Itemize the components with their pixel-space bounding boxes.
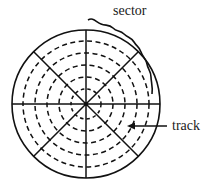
disk-diagram [0, 0, 214, 186]
track-label: track [172, 119, 200, 133]
arrowhead-icon [127, 123, 135, 130]
spindle-center-dot [84, 102, 88, 106]
sector-label: sector [113, 4, 146, 18]
track-pointer-arrow [127, 123, 167, 130]
